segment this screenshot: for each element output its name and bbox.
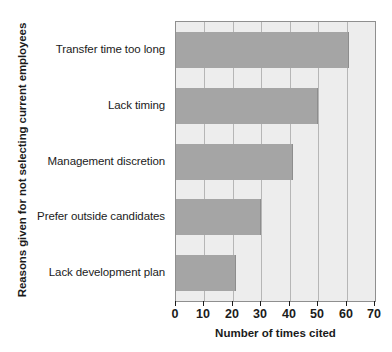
- bar: [176, 32, 349, 68]
- bar: [176, 255, 236, 291]
- category-label: Lack timing: [108, 97, 165, 113]
- category-label: Transfer time too long: [56, 41, 165, 57]
- tick-label: 50: [302, 306, 332, 322]
- tick-label: 70: [359, 306, 389, 322]
- tick-label: 20: [217, 306, 247, 322]
- bar-series: [176, 22, 375, 301]
- bar: [176, 88, 318, 124]
- bar: [176, 144, 293, 180]
- tick-label: 40: [274, 306, 304, 322]
- bar-chart: Reasons given for not selecting current …: [0, 0, 392, 352]
- tick-label: 10: [188, 306, 218, 322]
- x-axis-title: Number of times cited: [175, 327, 376, 339]
- plot-area: [175, 21, 376, 302]
- category-label: Prefer outside candidates: [37, 208, 165, 224]
- category-label-list: Transfer time too longLack timingManagem…: [22, 21, 170, 300]
- x-axis-tick-labels: 010203040506070: [175, 306, 376, 324]
- tick-label: 60: [331, 306, 361, 322]
- category-label: Management discretion: [48, 153, 165, 169]
- tick-label: 30: [245, 306, 275, 322]
- tick-label: 0: [160, 306, 190, 322]
- bar: [176, 199, 261, 235]
- category-label: Lack development plan: [49, 264, 165, 280]
